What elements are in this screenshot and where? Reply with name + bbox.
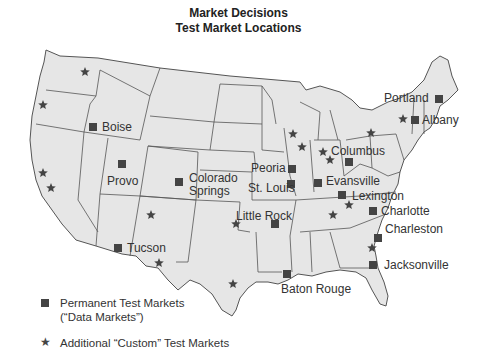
permanent-market-square-icon — [374, 234, 382, 242]
city-label: Provo — [107, 175, 138, 188]
permanent-market-square-icon — [338, 191, 346, 199]
star-marker-icon: ★ — [38, 336, 52, 348]
permanent-market-square-icon — [345, 158, 353, 166]
city-label: Little Rock — [236, 210, 292, 223]
legend-custom: ★ Additional “Custom” Test Markets — [38, 336, 229, 350]
permanent-market-square-icon — [411, 116, 419, 124]
city-label: Evansville — [326, 175, 380, 188]
permanent-market-square-icon — [114, 244, 122, 252]
city-label: St. Louis — [248, 182, 295, 195]
permanent-market-square-icon — [288, 165, 296, 173]
city-label: Charleston — [385, 223, 443, 236]
city-label: Portland — [384, 92, 429, 105]
square-marker-icon — [41, 299, 49, 307]
legend-permanent: Permanent Test Markets (“Data Markets”) — [38, 296, 229, 324]
city-label: Jacksonville — [384, 259, 449, 272]
city-label: Baton Rouge — [281, 283, 351, 296]
legend-permanent-sublabel: (“Data Markets”) — [60, 310, 184, 324]
permanent-market-square-icon — [369, 261, 377, 269]
city-label: Lexington — [352, 190, 404, 203]
permanent-market-square-icon — [369, 207, 377, 215]
permanent-market-square-icon — [314, 179, 322, 187]
city-label: Peoria — [251, 162, 286, 175]
city-label: ColoradoSprings — [189, 172, 238, 198]
permanent-market-square-icon — [175, 178, 183, 186]
city-label: Columbus — [331, 145, 385, 158]
legend: Permanent Test Markets (“Data Markets”) … — [38, 296, 229, 362]
city-label: Boise — [102, 121, 132, 134]
permanent-market-square-icon — [435, 95, 443, 103]
city-label: Charlotte — [381, 205, 430, 218]
us-outline — [30, 50, 458, 316]
city-label: Albany — [422, 114, 459, 127]
legend-custom-label: Additional “Custom” Test Markets — [60, 336, 229, 350]
permanent-market-square-icon — [283, 270, 291, 278]
legend-permanent-label: Permanent Test Markets — [60, 296, 184, 310]
permanent-market-square-icon — [118, 160, 126, 168]
city-label: Tucson — [127, 242, 166, 255]
permanent-market-square-icon — [89, 123, 97, 131]
